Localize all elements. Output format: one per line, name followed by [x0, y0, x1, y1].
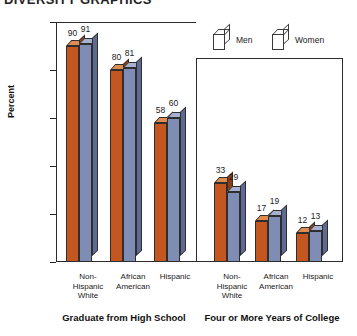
bar-value-label: 19 — [264, 196, 285, 206]
bar-men-0 — [66, 46, 79, 262]
cube-icon-women — [272, 29, 289, 50]
bar-value-label: 60 — [163, 98, 184, 108]
panel-caption: Four or More Years of College — [187, 312, 357, 323]
category-label: Hispanic — [149, 272, 201, 282]
cube-icon-men — [213, 29, 230, 50]
bar-women-2 — [309, 231, 322, 262]
bar-value-label: 29 — [223, 172, 244, 182]
category-label: Hispanic — [292, 272, 344, 282]
bar-value-label: 13 — [305, 211, 326, 221]
legend-label-women: Women — [295, 35, 324, 45]
bar-men-1 — [255, 221, 268, 262]
legend-item-men[interactable]: Men — [213, 29, 253, 50]
y-axis-label: Percent — [6, 85, 16, 118]
bar-women-0 — [227, 192, 240, 262]
bar-value-label: 91 — [75, 24, 96, 34]
bar-men-2 — [154, 123, 167, 262]
bar-women-1 — [123, 68, 136, 262]
bar-men-0 — [214, 183, 227, 262]
legend-item-women[interactable]: Women — [272, 29, 324, 50]
legend: Men Women — [196, 22, 343, 59]
panel-caption: Graduate from High School — [39, 312, 209, 323]
bar-women-1 — [268, 216, 281, 262]
bar-men-1 — [110, 70, 123, 262]
bar-women-0 — [79, 44, 92, 262]
bar-men-2 — [296, 233, 309, 262]
chart-root: DIVERSITY GRAPHICS Percent 020406080100 … — [0, 0, 357, 336]
legend-label-men: Men — [236, 35, 253, 45]
bar-women-2 — [167, 118, 180, 262]
y-axis: Percent 020406080100 — [0, 0, 56, 336]
y-tick-mark — [50, 262, 56, 263]
bar-value-label: 81 — [119, 48, 140, 58]
